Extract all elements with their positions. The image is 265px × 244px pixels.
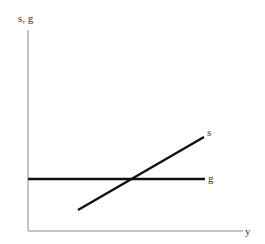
x-axis-label: y [245, 225, 251, 237]
y-axis-label: s, g [18, 12, 34, 24]
g-line-label: g [208, 172, 214, 184]
s-line [78, 137, 204, 210]
diagram: s, g y s g [0, 0, 265, 244]
s-line-label: s [207, 126, 211, 138]
